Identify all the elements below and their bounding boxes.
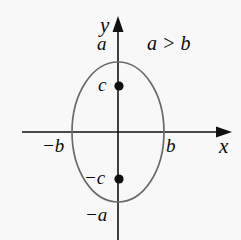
ellipse-diagram-canvas: y x a > b a −a −b b c −c: [0, 0, 241, 240]
condition-annotation: a > b: [147, 33, 191, 53]
focus-point-lower: [114, 174, 123, 183]
focus-point-upper: [114, 81, 123, 90]
tick-label-negative-b-left: −b: [42, 136, 64, 155]
diagram-vector-layer: [0, 0, 241, 240]
y-axis-arrowhead: [113, 16, 124, 32]
x-axis-label: x: [219, 136, 228, 157]
tick-label-a-top: a: [97, 34, 107, 53]
tick-label-b-right: b: [166, 136, 176, 155]
tick-label-negative-a-bottom: −a: [85, 205, 107, 224]
focus-label-c: c: [98, 75, 106, 94]
focus-label-negative-c: −c: [84, 168, 105, 187]
